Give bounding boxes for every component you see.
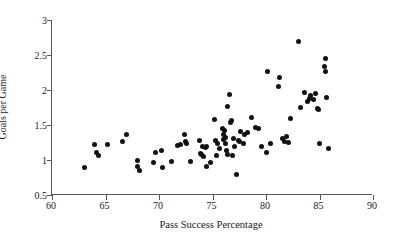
data-point [227,92,232,97]
x-axis-label: Pass Success Percentage [159,219,262,230]
data-point [323,69,328,74]
data-point [313,91,318,96]
data-point [217,146,222,151]
y-tick-label: 1.5 [35,120,48,131]
data-point [268,141,273,146]
data-point [234,172,239,177]
data-point [232,144,237,149]
y-axis-tick-labels: 0.511.522.53 [0,20,47,195]
data-point [151,160,156,165]
data-point [259,144,264,149]
data-point [197,138,202,143]
data-point [322,64,327,69]
data-point [204,164,209,169]
data-point [324,95,329,100]
data-points-layer [52,20,372,194]
data-point [311,97,316,102]
data-point [223,141,228,146]
x-tick-label: 75 [207,200,217,211]
y-tick-label: 2.5 [35,50,48,61]
data-point [188,159,193,164]
data-point [256,126,261,131]
data-point [316,107,321,112]
data-point [276,84,281,89]
data-point [326,146,331,151]
data-point [249,115,254,120]
data-point [302,90,307,95]
data-point [265,69,270,74]
data-point [212,117,217,122]
data-point [159,148,164,153]
data-point [277,75,282,80]
data-point [230,153,235,158]
y-tick-label: 0.5 [35,190,48,201]
data-point [317,141,322,146]
data-point [169,159,174,164]
data-point [204,144,209,149]
data-point [264,150,269,155]
data-point [124,132,129,137]
data-point [208,160,213,165]
data-point [323,56,328,61]
data-point [215,141,220,146]
x-tick-label: 65 [100,200,110,211]
x-tick-label: 60 [46,200,56,211]
plot-area [51,20,372,195]
data-point [225,104,230,109]
x-tick-label: 90 [367,200,377,211]
data-point [178,142,183,147]
data-point [184,141,189,146]
x-tick-label: 85 [314,200,324,211]
data-point [153,150,158,155]
data-point [96,153,101,158]
data-point [284,134,289,139]
data-point [225,152,230,157]
data-point [82,165,87,170]
data-point [135,158,140,163]
data-point [137,168,142,173]
x-tick-label: 80 [260,200,270,211]
data-point [201,154,206,159]
data-point [222,128,227,133]
x-tick-label: 70 [153,200,163,211]
data-point [288,116,293,121]
scatter-plot-figure: Goals per Game 0.511.522.53 606570758085… [0,0,395,241]
data-point [298,105,303,110]
data-point [182,132,187,137]
x-axis-tick-labels: 60657075808590 [51,197,372,213]
data-point [92,142,97,147]
data-point [286,140,291,145]
data-point [223,135,228,140]
data-point [296,39,301,44]
data-point [214,153,219,158]
data-point [160,165,165,170]
data-point [241,141,246,146]
data-point [229,118,234,123]
data-point [245,130,250,135]
data-point [105,142,110,147]
data-point [120,139,125,144]
